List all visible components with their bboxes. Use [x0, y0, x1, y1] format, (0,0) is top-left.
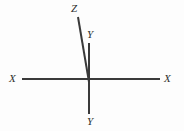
axes-diagram: Z Y X X Y: [0, 0, 184, 131]
x-axis-label-right: X: [164, 73, 171, 84]
y-axis-label-bottom: Y: [87, 116, 93, 127]
z-axis-label: Z: [71, 3, 77, 14]
y-axis-label-top: Y: [87, 29, 93, 40]
axes-drawing-canvas: [0, 0, 184, 131]
x-axis-label-left: X: [9, 73, 16, 84]
z-axis-line: [78, 17, 89, 82]
